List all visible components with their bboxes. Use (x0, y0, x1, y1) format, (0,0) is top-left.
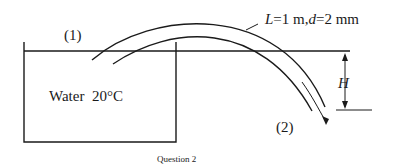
height-arrow-up-icon (342, 53, 348, 61)
point1-label: (1) (64, 27, 82, 44)
tube-label: L=1 m,d=2 mm (264, 11, 359, 27)
tube-diameter-value: =2 mm (316, 11, 359, 27)
siphon-tube-inner-wall (113, 37, 312, 111)
tank-label: Water 20°C (49, 88, 123, 104)
flow-arrowhead-icon (322, 116, 329, 125)
tube-length-value: =1 m, (273, 11, 308, 27)
tube-label-leader (246, 24, 258, 30)
siphon-tube-outer-wall (92, 24, 325, 107)
point2-label: (2) (276, 119, 294, 136)
height-label: H (337, 75, 350, 91)
tube-length-symbol: L (264, 11, 273, 27)
figure-caption: Question 2 (157, 154, 196, 164)
height-arrow-down-icon (342, 101, 348, 109)
siphon-diagram: (1) (2) Water 20°C H L=1 m,d=2 mm Questi… (0, 0, 406, 168)
